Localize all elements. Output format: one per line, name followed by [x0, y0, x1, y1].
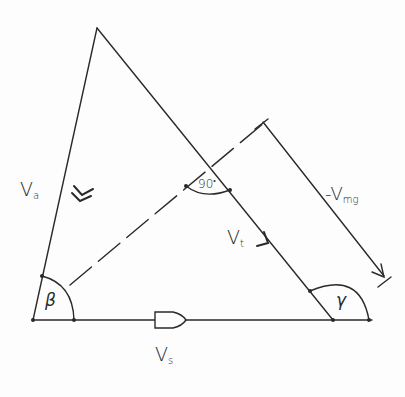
- vmg-end-tick: [378, 277, 391, 287]
- vt-arrow-icon: [257, 232, 268, 246]
- vt-label: Vt: [227, 226, 244, 249]
- vs-arrow-icon: [155, 312, 186, 328]
- vs-label: Vs: [155, 343, 173, 366]
- beta-label: β: [45, 290, 56, 310]
- velocity-triangle-diagram: Va Vt Vs -Vmg 90• β γ: [0, 0, 405, 397]
- va-label: Va: [20, 178, 39, 201]
- vmg-label: -Vmg: [325, 183, 359, 205]
- vmg-arrowhead-icon: [372, 264, 384, 277]
- perpendicular-dashed-line: [70, 122, 265, 285]
- right-angle-label: 90•: [198, 177, 216, 191]
- vt-vector-line: [97, 28, 333, 320]
- vmg-start-tick: [255, 119, 268, 129]
- va-double-arrow-icon: [74, 186, 93, 195]
- gamma-label: γ: [336, 290, 346, 310]
- vmg-vector-line: [263, 122, 384, 276]
